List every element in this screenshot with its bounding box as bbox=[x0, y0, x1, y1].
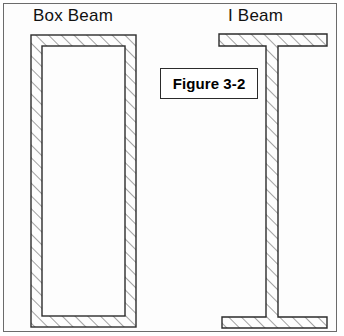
box-beam-hatch-fill bbox=[31, 35, 136, 327]
figure-label-box: Figure 3-2 bbox=[160, 68, 258, 99]
box-beam-inner-outline bbox=[42, 46, 125, 316]
figure-label-text: Figure 3-2 bbox=[173, 75, 246, 92]
i-beam-caption: I Beam bbox=[228, 6, 283, 26]
box-beam-outer-outline bbox=[31, 35, 136, 327]
box-beam-section bbox=[31, 35, 136, 327]
box-beam-caption: Box Beam bbox=[33, 6, 113, 26]
beam-cross-section-drawing bbox=[0, 0, 344, 336]
figure-plate: Box Beam I Beam Figure 3-2 bbox=[0, 0, 344, 336]
